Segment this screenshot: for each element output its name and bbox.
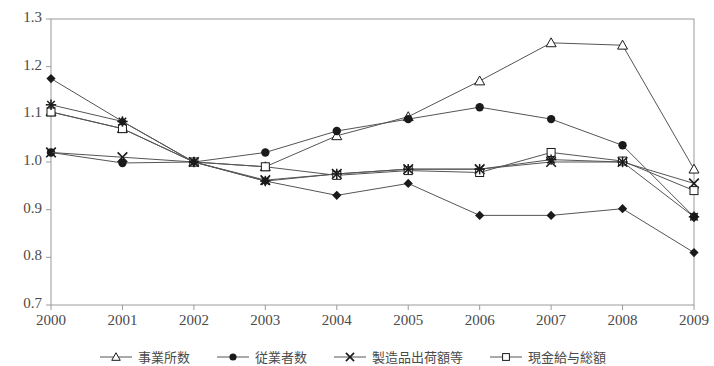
x-tick-label: 2002 [162,312,226,329]
x-tick-label: 2009 [662,312,714,329]
data-point-marker [475,76,485,85]
y-tick-label: 1.3 [8,9,42,26]
data-point-marker [547,115,555,123]
x-tick-label: 2001 [90,312,154,329]
data-point-marker [333,127,341,135]
data-point-marker [229,353,236,360]
data-point-marker [546,154,556,164]
data-series [51,79,694,253]
data-point-marker [618,204,627,213]
legend-item: 現金給与総額 [489,347,606,366]
data-point-marker [617,157,627,167]
data-point-marker [403,164,413,174]
data-point-marker [689,212,699,222]
x-tick-label: 2008 [591,312,655,329]
series-markers [46,38,699,173]
data-point-marker [332,169,342,179]
legend-item: 製造品出荷額等 [333,347,463,366]
data-point-marker [404,115,412,123]
x-tick-label: 2007 [519,312,583,329]
legend-marker-icon [216,351,250,363]
y-axis-ticks [46,19,51,305]
data-point-marker [618,141,626,149]
series-markers [46,148,699,189]
data-point-marker [474,164,484,174]
y-tick-label: 1.2 [8,57,42,74]
data-point-marker [475,103,483,111]
data-point-marker [404,179,413,188]
y-tick-label: 0.9 [8,200,42,217]
data-series [51,105,694,217]
data-point-marker [547,211,556,220]
data-point-marker [475,211,484,220]
chart-legend: 事業所数従業者数製造品出荷額等現金給与総額 [0,347,704,366]
data-point-marker [502,353,509,360]
x-tick-label: 2004 [305,312,369,329]
data-series [51,43,694,169]
x-tick-label: 2000 [19,312,83,329]
data-point-marker [690,187,698,195]
legend-marker-icon [99,351,133,363]
data-point-marker [546,38,556,47]
data-point-marker [689,248,698,257]
legend-marker-icon [489,351,523,363]
x-tick-label: 2005 [376,312,440,329]
series-markers [46,74,698,257]
y-tick-label: 0.8 [8,247,42,264]
y-tick-label: 1.1 [8,104,42,121]
data-point-marker [332,191,341,200]
data-series [51,112,694,191]
y-tick-label: 0.7 [8,295,42,312]
legend-marker-icon [333,351,367,363]
legend-label: 事業所数 [138,347,190,366]
data-series [51,152,694,183]
legend-item: 従業者数 [216,347,307,366]
x-tick-label: 2006 [448,312,512,329]
legend-label: 現金給与総額 [528,347,606,366]
legend-label: 製造品出荷額等 [372,347,463,366]
data-point-marker [261,148,269,156]
legend-item: 事業所数 [99,347,190,366]
data-point-marker [261,163,269,171]
legend-label: 従業者数 [255,347,307,366]
data-point-marker [46,74,55,83]
data-point-marker [46,100,56,110]
x-axis-ticks [51,305,694,310]
x-tick-label: 2003 [233,312,297,329]
y-tick-label: 1.0 [8,152,42,169]
data-point-marker [689,164,699,173]
series-markers [47,108,698,195]
